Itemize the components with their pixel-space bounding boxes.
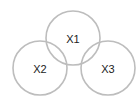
venn-diagram: X1 X2 X3	[0, 0, 140, 106]
label-x1: X1	[66, 33, 79, 45]
set-x3: X3	[81, 41, 135, 95]
set-x1: X1	[46, 11, 100, 65]
label-x3: X3	[101, 63, 114, 75]
label-x2: X2	[33, 63, 46, 75]
set-x2: X2	[13, 41, 67, 95]
